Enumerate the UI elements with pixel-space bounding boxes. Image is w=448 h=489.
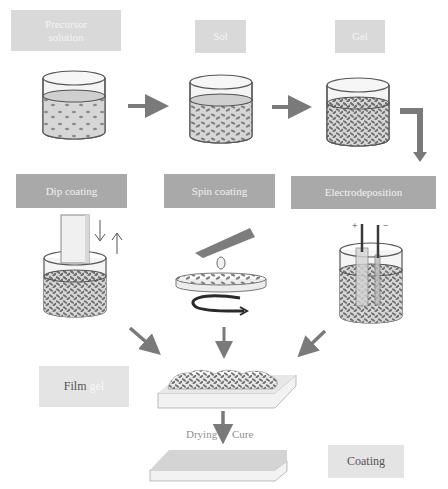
label-precursor-line1: Precursor bbox=[45, 18, 87, 31]
label-dip-coating: Dip coating bbox=[16, 174, 127, 208]
beaker-sol-icon bbox=[190, 75, 252, 143]
label-film-suffix: gel bbox=[90, 380, 105, 393]
label-spin-coating: Spin coating bbox=[164, 174, 275, 208]
electrode-plus-sign: + bbox=[352, 220, 358, 231]
label-film-gel: Film gel bbox=[39, 366, 129, 407]
arrow-dip-to-film bbox=[130, 328, 153, 348]
arrow-to-methods bbox=[400, 108, 427, 162]
label-drying: Drying bbox=[186, 428, 217, 440]
arrow-electro-to-film bbox=[305, 331, 325, 350]
coated-substrate-icon bbox=[150, 450, 287, 481]
electrodeposition-icon bbox=[340, 224, 402, 323]
beaker-precursor-icon bbox=[43, 71, 105, 139]
label-coating: Coating bbox=[328, 445, 404, 478]
beaker-gel-icon bbox=[327, 78, 389, 146]
film-gel-substrate-icon bbox=[158, 370, 296, 408]
dip-coating-icon bbox=[44, 215, 122, 317]
label-sol: Sol bbox=[195, 20, 246, 53]
label-cure: Cure bbox=[232, 428, 253, 440]
label-precursor-solution: Precursor solution bbox=[11, 10, 121, 51]
electrode-minus-sign: − bbox=[383, 220, 389, 231]
label-precursor-line2: solution bbox=[48, 31, 83, 44]
sol-gel-diagram-graphics bbox=[0, 0, 448, 489]
label-film-word: Film bbox=[64, 380, 87, 393]
spin-coating-icon bbox=[176, 228, 266, 315]
label-gel: Gel bbox=[335, 20, 385, 53]
label-electrodeposition: Electrodeposition bbox=[291, 176, 436, 209]
